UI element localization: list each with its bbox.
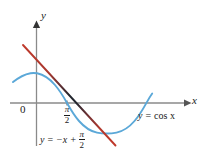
tangent-line-label: y = −x + π 2 (40, 130, 85, 151)
fraction-pi-over-two: π 2 (64, 105, 71, 126)
tangent-fraction-denominator: 2 (79, 141, 86, 150)
cosine-label-lhs: y (138, 111, 142, 121)
cosine-label-rhs: cos x (154, 111, 175, 121)
tangent-label-equals: = (46, 135, 54, 145)
cosine-curve-label: y = cos x (138, 111, 175, 121)
y-axis-arrow-icon (33, 21, 40, 29)
tangent-label-rhs: −x + (56, 135, 76, 145)
origin-label: 0 (20, 104, 26, 115)
tick-label-pi-over-two: π 2 (60, 105, 74, 126)
figure-cosine-tangent: y x 0 π 2 y = cos x y = −x + π 2 (0, 0, 208, 153)
tangent-fraction: π 2 (79, 130, 86, 151)
fraction-numerator: π (64, 105, 71, 114)
tangent-label-lhs: y (40, 135, 44, 145)
tangent-fraction-numerator: π (79, 130, 86, 139)
fraction-denominator: 2 (64, 116, 71, 125)
cosine-equation: y = cos x (138, 111, 175, 121)
plot-canvas (0, 0, 208, 153)
x-axis-label: x (192, 95, 197, 106)
tangent-fraction-pi-over-two: π 2 (79, 130, 86, 151)
x-axis-arrow-icon (184, 99, 192, 106)
cosine-label-equals: = (144, 111, 152, 121)
tangent-equation: y = −x + π 2 (40, 130, 85, 151)
y-axis-label: y (41, 10, 46, 21)
